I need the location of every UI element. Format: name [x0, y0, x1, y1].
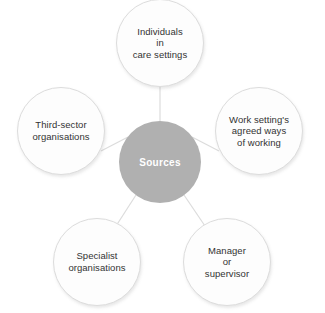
hub-sources: Sources [119, 121, 201, 203]
node-manager-or-supervisor: Managerorsupervisor [183, 218, 271, 306]
node-label: Managerorsupervisor [199, 245, 255, 280]
node-work-settings-agreed-ways-of-working: Work setting'sagreed waysof working [215, 87, 303, 175]
hub-label: Sources [139, 157, 181, 168]
node-individuals-in-care-settings: Individualsincare settings [116, 0, 204, 87]
node-label: Individualsincare settings [127, 26, 194, 61]
node-third-sector-organisations: Third-sectororganisations [17, 87, 105, 175]
node-label: Third-sectororganisations [26, 119, 95, 142]
node-label: Work setting'sagreed waysof working [223, 114, 295, 149]
connector-line-bottom-right [184, 195, 205, 226]
node-label: Specialistorganisations [62, 250, 131, 273]
node-specialist-organisations: Specialistorganisations [53, 218, 141, 306]
connector-line-bottom-left [116, 195, 136, 226]
sources-radial-diagram: Individualsincare settings Work setting'… [0, 0, 325, 313]
